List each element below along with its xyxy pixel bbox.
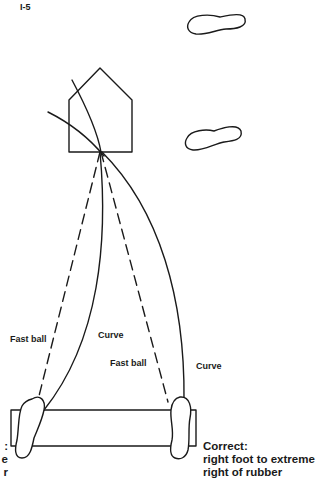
footprint-upper <box>188 15 246 35</box>
pitching-diagram <box>0 0 316 486</box>
caption-correct-line3: right of rubber <box>203 466 315 479</box>
left-foot <box>16 397 45 458</box>
fast-ball-path-left <box>38 152 100 400</box>
fast-ball-label-left: Fast ball <box>10 335 47 344</box>
curve-from-left-through-plate <box>72 80 101 152</box>
curve-label-left: Curve <box>98 331 124 340</box>
caption-correct-line2: right foot to extreme <box>203 453 315 466</box>
right-foot <box>171 397 191 459</box>
caption-left-fragment-line3: r <box>0 466 8 479</box>
caption-left-fragment-line2: e <box>0 453 8 466</box>
curve-path-left <box>44 152 103 410</box>
footprint-lower <box>185 127 241 150</box>
fast-ball-label-right: Fast ball <box>110 359 147 368</box>
caption-left-fragment: : e r <box>0 440 8 479</box>
caption-correct: Correct: right foot to extreme right of … <box>203 440 315 479</box>
home-plate <box>69 68 132 152</box>
caption-correct-line1: Correct: <box>203 440 315 453</box>
curve-label-right: Curve <box>196 362 222 371</box>
caption-left-fragment-line1: : <box>0 440 8 453</box>
